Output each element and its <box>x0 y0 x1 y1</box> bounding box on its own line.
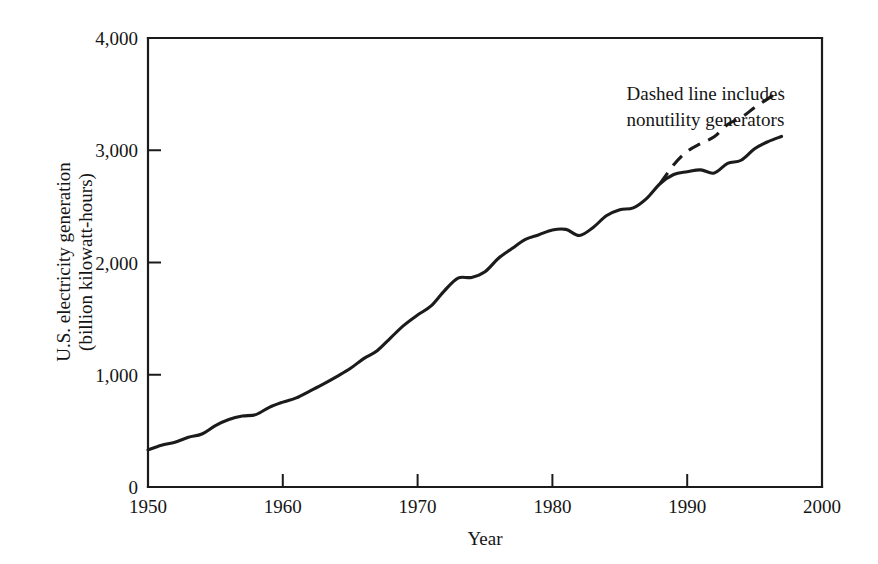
x-tick-label-1960: 1960 <box>264 496 302 517</box>
y-tick-label-1000: 1,000 <box>95 365 138 386</box>
dashed-line-note-line2: nonutility generators <box>627 109 785 130</box>
dashed-line-note-line1: Dashed line includes <box>627 83 785 104</box>
y-axis-title-line2: (billion kilowatt-hours) <box>75 173 97 351</box>
x-axis-title: Year <box>467 528 503 549</box>
line-chart: 01,0002,0003,0004,000 195019601970198019… <box>0 0 878 564</box>
y-tick-label-0: 0 <box>129 477 139 498</box>
x-tick-label-1970: 1970 <box>399 496 437 517</box>
y-axis-title-line1: U.S. electricity generation <box>53 162 74 362</box>
y-axis-ticks <box>148 150 161 375</box>
x-tick-label-2000: 2000 <box>803 496 841 517</box>
y-tick-label-3000: 3,000 <box>95 140 138 161</box>
y-tick-label-4000: 4,000 <box>95 28 138 49</box>
x-axis-ticks <box>283 474 687 487</box>
x-tick-label-1990: 1990 <box>668 496 706 517</box>
x-axis-tick-labels: 195019601970198019902000 <box>129 496 841 517</box>
y-tick-label-2000: 2,000 <box>95 253 138 274</box>
x-tick-label-1980: 1980 <box>533 496 571 517</box>
y-axis-tick-labels: 01,0002,0003,0004,000 <box>95 28 138 498</box>
chart-figure: 01,0002,0003,0004,000 195019601970198019… <box>0 0 878 564</box>
series-utility-generation <box>148 136 782 450</box>
x-tick-label-1950: 1950 <box>129 496 167 517</box>
